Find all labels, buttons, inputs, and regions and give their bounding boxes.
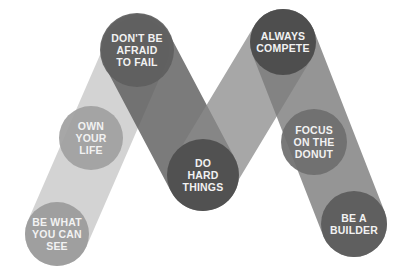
label-line: YOUR: [75, 132, 106, 144]
label-line: AFRAID: [111, 44, 162, 56]
label-line: FOCUS: [294, 124, 335, 136]
label-line: DONUT: [294, 148, 335, 160]
label-be-a-builder: BE A BUILDER: [330, 212, 378, 236]
label-own-your-life: OWN YOUR LIFE: [75, 120, 106, 156]
label-line: SEE: [32, 240, 82, 252]
label-always-compete: ALWAYS COMPETE: [256, 30, 309, 54]
m-diagram: BE WHAT YOU CAN SEE OWN YOUR LIFE DON'T …: [0, 0, 407, 274]
label-dont-be-afraid-to-fail: DON'T BE AFRAID TO FAIL: [111, 32, 162, 68]
label-line: YOU CAN: [32, 228, 82, 240]
label-line: THINGS: [183, 181, 224, 193]
label-line: BE WHAT: [32, 216, 82, 228]
label-line: ALWAYS: [256, 30, 309, 42]
label-line: TO FAIL: [111, 56, 162, 68]
label-be-what-you-can-see: BE WHAT YOU CAN SEE: [32, 216, 82, 252]
label-line: ON THE: [294, 136, 335, 148]
label-line: LIFE: [75, 144, 106, 156]
label-line: HARD: [183, 169, 224, 181]
label-do-hard-things: DO HARD THINGS: [183, 157, 224, 193]
label-line: OWN: [75, 120, 106, 132]
label-line: BE A: [330, 212, 378, 224]
label-line: DO: [183, 157, 224, 169]
label-line: DON'T BE: [111, 32, 162, 44]
label-line: BUILDER: [330, 224, 378, 236]
label-focus-on-the-donut: FOCUS ON THE DONUT: [294, 124, 335, 160]
label-line: COMPETE: [256, 42, 309, 54]
